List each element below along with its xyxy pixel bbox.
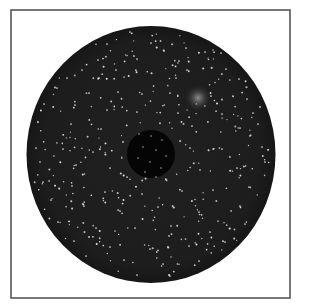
star [70,123,72,125]
bright-glow-spot [184,84,212,112]
star [244,223,246,225]
star [62,143,64,145]
star [73,165,75,167]
star [74,146,76,148]
star [264,161,266,163]
star [150,100,152,102]
star [212,189,214,191]
star [208,149,210,151]
star [188,245,190,247]
star [168,235,170,237]
star [245,80,247,82]
star [165,155,166,156]
star [245,165,247,167]
star [222,240,224,242]
star [100,97,102,99]
star [60,111,61,112]
star [210,170,211,171]
star [90,194,92,196]
star [175,66,177,68]
star [155,176,156,177]
star [159,122,161,124]
star [234,125,236,127]
star [215,110,217,112]
star [179,35,180,36]
star [62,134,64,136]
star [71,208,73,210]
star [69,224,70,225]
star [240,168,241,169]
star [48,180,50,182]
star [155,229,157,231]
star [66,194,67,195]
star [125,54,127,56]
star [221,73,223,75]
star [250,187,252,189]
star [240,207,242,209]
star [221,249,223,251]
star [236,240,237,241]
star [123,76,125,78]
star [110,50,112,52]
star [178,60,180,62]
star [138,133,139,134]
star [208,59,210,61]
star [82,222,84,224]
star [156,33,157,34]
star [73,107,75,109]
star [132,51,133,52]
star [141,180,143,182]
star [250,134,252,136]
star [186,109,187,110]
star [59,77,61,79]
star [88,236,90,238]
star [221,117,223,119]
star [181,239,183,241]
star [248,145,249,146]
star [220,131,222,133]
star [99,230,101,232]
star [214,100,216,102]
star [87,136,89,138]
star [37,121,38,122]
star [141,193,143,195]
star [153,85,155,87]
star [59,222,60,223]
star [84,173,85,174]
star [43,141,45,143]
star [221,99,223,101]
star [225,68,227,70]
star [126,125,128,127]
star [268,149,269,150]
star [207,243,209,245]
star [196,244,198,246]
star [229,170,231,172]
star [54,86,56,88]
star [102,245,104,247]
star [142,146,143,147]
star [82,174,84,176]
star [83,187,85,189]
star [198,233,200,235]
star [105,56,107,58]
star [171,128,172,129]
star [74,74,76,76]
star [116,39,117,40]
star [232,171,233,172]
star [221,113,223,115]
star [212,148,214,150]
star [220,52,222,54]
star [71,182,73,184]
star [53,94,55,96]
star [210,92,212,94]
star [210,95,212,97]
star [117,209,119,211]
star [198,52,200,54]
star [237,127,238,128]
star [229,227,231,229]
star [53,175,54,176]
star [109,246,111,248]
star [58,188,60,190]
star [151,35,153,37]
star [262,155,264,157]
